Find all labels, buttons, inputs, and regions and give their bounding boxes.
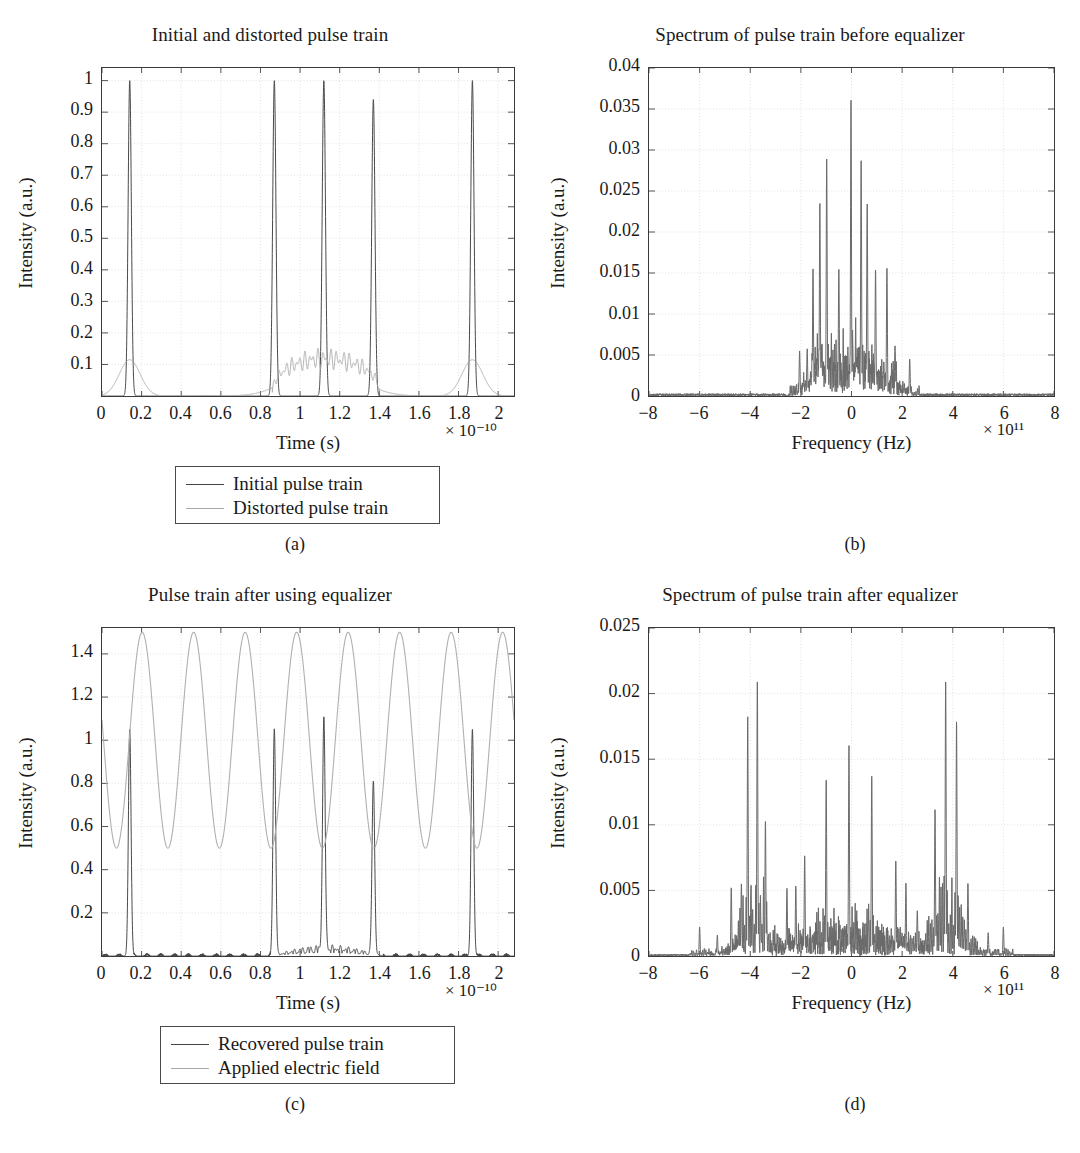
ytick-label: 0.015 (570, 261, 640, 282)
ytick-label: 0.8 (23, 131, 93, 152)
panel-a-plot-area (101, 67, 515, 397)
panel-c-plot-area (101, 627, 515, 957)
figure-root: Initial and distorted pulse train Intens… (0, 0, 1080, 1153)
panel-d-title: Spectrum of pulse train after equalizer (540, 584, 1080, 606)
panel-a-title: Initial and distorted pulse train (0, 24, 540, 46)
ytick-label: 1.4 (23, 641, 93, 662)
ytick-label: 0.4 (23, 858, 93, 879)
xtick-label: −6 (674, 403, 724, 424)
ytick-label: 0.015 (570, 747, 640, 768)
ytick-label: 0.02 (570, 220, 640, 241)
panel-d-ylabel: Intensity (a.u.) (547, 723, 569, 863)
xtick-label: −2 (776, 963, 826, 984)
legend-row-recovered: Recovered pulse train (171, 1032, 442, 1056)
legend-label-distorted: Distorted pulse train (233, 497, 388, 519)
ytick-label: 0.035 (570, 96, 640, 117)
xtick-label: 2 (877, 963, 927, 984)
panel-d-plot-area (648, 627, 1055, 957)
legend-line-initial (186, 484, 224, 485)
legend-label-initial: Initial pulse train (233, 473, 363, 495)
xtick-label: 0 (827, 403, 877, 424)
ytick-label: 0.025 (570, 615, 640, 636)
ytick-label: 0.005 (570, 879, 640, 900)
ytick-label: 0.01 (570, 813, 640, 834)
ytick-label: 0.1 (23, 353, 93, 374)
legend-line-distorted (186, 508, 224, 509)
legend-row-applied-field: Applied electric field (171, 1056, 442, 1080)
xtick-label: 0 (827, 963, 877, 984)
ytick-label: 0.3 (23, 290, 93, 311)
ytick-label: 0.005 (570, 344, 640, 365)
xtick-label: 4 (928, 403, 978, 424)
panel-d-x-exponent: × 10¹¹ (983, 980, 1024, 1000)
legend-label-recovered: Recovered pulse train (218, 1033, 384, 1055)
xtick-label: −4 (725, 963, 775, 984)
legend-row-distorted: Distorted pulse train (186, 496, 427, 520)
xtick-label: 4 (928, 963, 978, 984)
xtick-label: −4 (725, 403, 775, 424)
xtick-label: −8 (623, 403, 673, 424)
ytick-label: 0.9 (23, 99, 93, 120)
xtick-label: 8 (1030, 403, 1080, 424)
ytick-label: 1 (23, 68, 93, 89)
legend-line-recovered (171, 1044, 209, 1045)
xtick-label: −6 (674, 963, 724, 984)
panel-a-legend: Initial pulse train Distorted pulse trai… (175, 466, 440, 524)
panel-a: Initial and distorted pulse train Intens… (0, 0, 540, 560)
ytick-label: 0.5 (23, 226, 93, 247)
xtick-label: −8 (623, 963, 673, 984)
panel-b-title: Spectrum of pulse train before equalizer (540, 24, 1080, 46)
ytick-label: 0.01 (570, 303, 640, 324)
panel-b: Spectrum of pulse train before equalizer… (540, 0, 1080, 560)
panel-d-letter: (d) (825, 1094, 885, 1115)
ytick-label: 0.03 (570, 138, 640, 159)
ytick-label: 0.025 (570, 179, 640, 200)
xtick-label: 2 (877, 403, 927, 424)
legend-label-applied-field: Applied electric field (218, 1057, 379, 1079)
panel-c-x-exponent: × 10⁻¹⁰ (445, 980, 497, 1001)
panel-c-title: Pulse train after using equalizer (0, 584, 540, 606)
xtick-label: −2 (776, 403, 826, 424)
panel-b-plot-area (648, 67, 1055, 397)
ytick-label: 0.6 (23, 195, 93, 216)
ytick-label: 0.04 (570, 55, 640, 76)
ytick-label: 1.2 (23, 684, 93, 705)
panel-a-x-exponent: × 10⁻¹⁰ (445, 420, 497, 441)
panel-c: Pulse train after using equalizer Intens… (0, 560, 540, 1153)
ytick-label: 0.2 (23, 322, 93, 343)
panel-b-x-exponent: × 10¹¹ (983, 420, 1024, 440)
ytick-label: 0.02 (570, 681, 640, 702)
legend-line-applied-field (171, 1068, 209, 1069)
ytick-label: 0.4 (23, 258, 93, 279)
legend-row-initial: Initial pulse train (186, 472, 427, 496)
panel-c-legend: Recovered pulse train Applied electric f… (160, 1026, 455, 1084)
ytick-label: 0.6 (23, 815, 93, 836)
panel-d: Spectrum of pulse train after equalizer … (540, 560, 1080, 1153)
ytick-label: 0.8 (23, 771, 93, 792)
ytick-label: 0.7 (23, 163, 93, 184)
ytick-label: 1 (23, 728, 93, 749)
panel-b-ylabel: Intensity (a.u.) (547, 163, 569, 303)
xtick-label: 8 (1030, 963, 1080, 984)
ytick-label: 0.2 (23, 902, 93, 923)
panel-b-letter: (b) (825, 534, 885, 555)
panel-c-letter: (c) (265, 1094, 325, 1115)
panel-a-letter: (a) (265, 534, 325, 555)
